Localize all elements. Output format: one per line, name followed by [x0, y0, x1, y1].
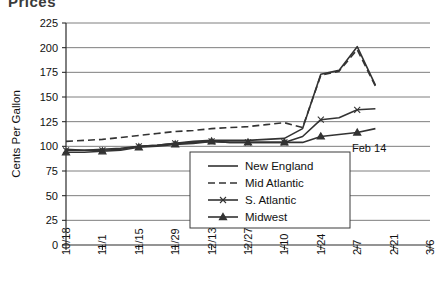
y-tick-label: 175 [40, 66, 58, 78]
y-tick-label: 100 [40, 140, 58, 152]
y-axis-ticks-group: 0255075100125150175200225 [40, 17, 66, 251]
data-series-group [62, 47, 375, 155]
legend-label[interactable]: Mid Atlantic [245, 177, 304, 189]
series-line-new-england [66, 47, 375, 151]
x-axis-ticks-group: 10/1811/111/1511/2912/1312/271/101/242/7… [60, 227, 436, 255]
series-line-s-atlantic [66, 109, 375, 151]
y-tick-label: 50 [46, 190, 58, 202]
y-tick-label: 150 [40, 91, 58, 103]
x-tick-label: 2/21 [388, 234, 400, 255]
y-tick-label: 200 [40, 42, 58, 54]
series-line-mid-atlantic [66, 50, 375, 142]
y-tick-label: 0 [52, 239, 58, 251]
y-tick-label: 225 [40, 17, 58, 29]
y-axis-label: Cents Per Gallon [10, 90, 22, 178]
x-tick-label: 1/24 [315, 234, 327, 255]
x-tick-label: 1/10 [278, 234, 290, 255]
y-tick-label: 25 [46, 214, 58, 226]
y-tick-label: 75 [46, 165, 58, 177]
x-tick-label: 12/13 [206, 227, 218, 255]
x-tick-label: 11/15 [133, 228, 145, 255]
x-tick-label: 2/7 [351, 240, 363, 255]
x-tick-label: 3/6 [424, 240, 436, 255]
feb-14-annotation: Feb 14 [352, 142, 386, 154]
line-chart-svg: 0255075100125150175200225 10/1811/111/15… [0, 0, 445, 290]
y-tick-label: 125 [40, 116, 58, 128]
x-tick-label: 11/29 [169, 228, 181, 255]
chart-legend: New EnglandMid AtlanticS. AtlanticMidwes… [190, 152, 350, 228]
chart-container: Prices 0255075100125150175200225 10/1811… [0, 0, 445, 290]
legend-label[interactable]: S. Atlantic [245, 194, 296, 206]
x-tick-label: 12/27 [242, 227, 254, 255]
legend-label[interactable]: Midwest [245, 211, 288, 223]
legend-label[interactable]: New England [245, 160, 313, 172]
